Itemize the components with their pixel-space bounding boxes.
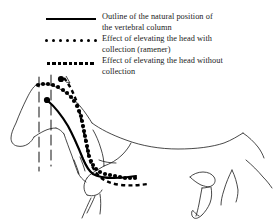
tail-outline bbox=[246, 160, 272, 188]
vertebra-marker-solid bbox=[44, 97, 50, 103]
femur-bone-back bbox=[196, 188, 202, 216]
throat-line bbox=[56, 128, 64, 134]
forelimb-cannon-back bbox=[100, 194, 101, 214]
dashed-line-icon bbox=[44, 59, 98, 70]
jaw-outline bbox=[34, 128, 56, 137]
legend-item-with-collection-label: Effect of elevating the head with collec… bbox=[102, 34, 212, 55]
legend-item-natural: Outline of the natural position of the v… bbox=[44, 12, 279, 33]
legend-item-without-collection-label: Effect of elevating the head without col… bbox=[102, 56, 223, 77]
solid-line-icon bbox=[44, 15, 98, 26]
scapula-bone bbox=[93, 130, 104, 166]
elbow-outline bbox=[78, 173, 86, 182]
head-outline bbox=[11, 85, 36, 146]
back-outline bbox=[92, 123, 243, 149]
dotted-line-icon bbox=[44, 37, 98, 48]
femur-bone bbox=[202, 187, 212, 215]
legend-item-without-collection: Effect of elevating the head without col… bbox=[44, 56, 279, 77]
legend-item-with-collection: Effect of elevating the head with collec… bbox=[44, 34, 279, 55]
figure-page: Outline of the natural position of the v… bbox=[0, 0, 279, 224]
stifle-joint bbox=[192, 211, 202, 219]
legend: Outline of the natural position of the v… bbox=[44, 12, 279, 79]
croup-outline bbox=[243, 133, 264, 158]
legend-item-natural-label: Outline of the natural position of the v… bbox=[102, 12, 213, 33]
hind-sweep-line-2 bbox=[221, 170, 232, 205]
rib-line-1 bbox=[74, 160, 79, 174]
hind-sweep-line-1 bbox=[232, 170, 238, 202]
pelvis-bone-inner bbox=[190, 177, 210, 187]
